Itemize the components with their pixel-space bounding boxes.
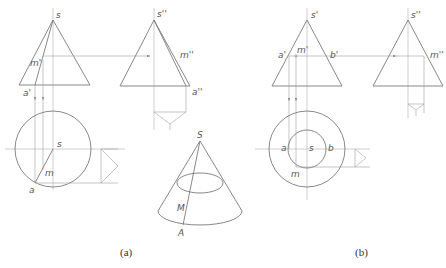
label-s-double-prime: s''	[157, 9, 167, 19]
label-M: M	[177, 203, 185, 213]
label-a-top: a	[29, 185, 35, 195]
pictorial-cone: S M A	[158, 130, 242, 238]
label-s-double-prime-b: s''	[411, 10, 421, 20]
caption-b: (b)	[355, 246, 368, 259]
panel-a: s m' a' s'' m'' a'' s m a	[5, 8, 242, 259]
label-m-prime-b: m'	[297, 45, 308, 55]
label-s-prime-b: s'	[311, 10, 318, 20]
top-view-b: a s b m	[255, 111, 370, 187]
label-m-double-prime: m''	[180, 50, 194, 60]
caption-a: (a)	[120, 246, 133, 259]
label-a-top-b: a	[281, 143, 287, 153]
label-m-top-b: m	[291, 169, 300, 179]
panel-b: s' a' m' b' s'' m'' a s b m (b)	[255, 8, 444, 259]
label-a-prime: a'	[23, 88, 31, 98]
side-view-a: s'' m'' a''	[120, 8, 202, 130]
label-m-top: m	[45, 168, 54, 178]
top-view-a: s m a	[5, 111, 125, 195]
label-m-prime: m'	[30, 58, 41, 68]
label-m-double-prime-b: m''	[430, 50, 444, 60]
label-A: A	[177, 228, 184, 238]
side-view-b: s'' m''	[373, 8, 444, 118]
front-view-a: s m' a'	[19, 8, 150, 190]
label-a-prime-b: a'	[278, 50, 286, 60]
label-s-top-b: s	[309, 143, 314, 153]
label-s: s	[56, 10, 61, 20]
label-b-top-b: b	[328, 143, 334, 153]
label-s-top: s	[57, 139, 62, 149]
label-S: S	[197, 130, 203, 140]
label-b-prime-b: b'	[330, 50, 338, 60]
cone-projection-diagram: s m' a' s'' m'' a'' s m a	[0, 0, 446, 268]
label-a-double-prime: a''	[192, 87, 202, 97]
